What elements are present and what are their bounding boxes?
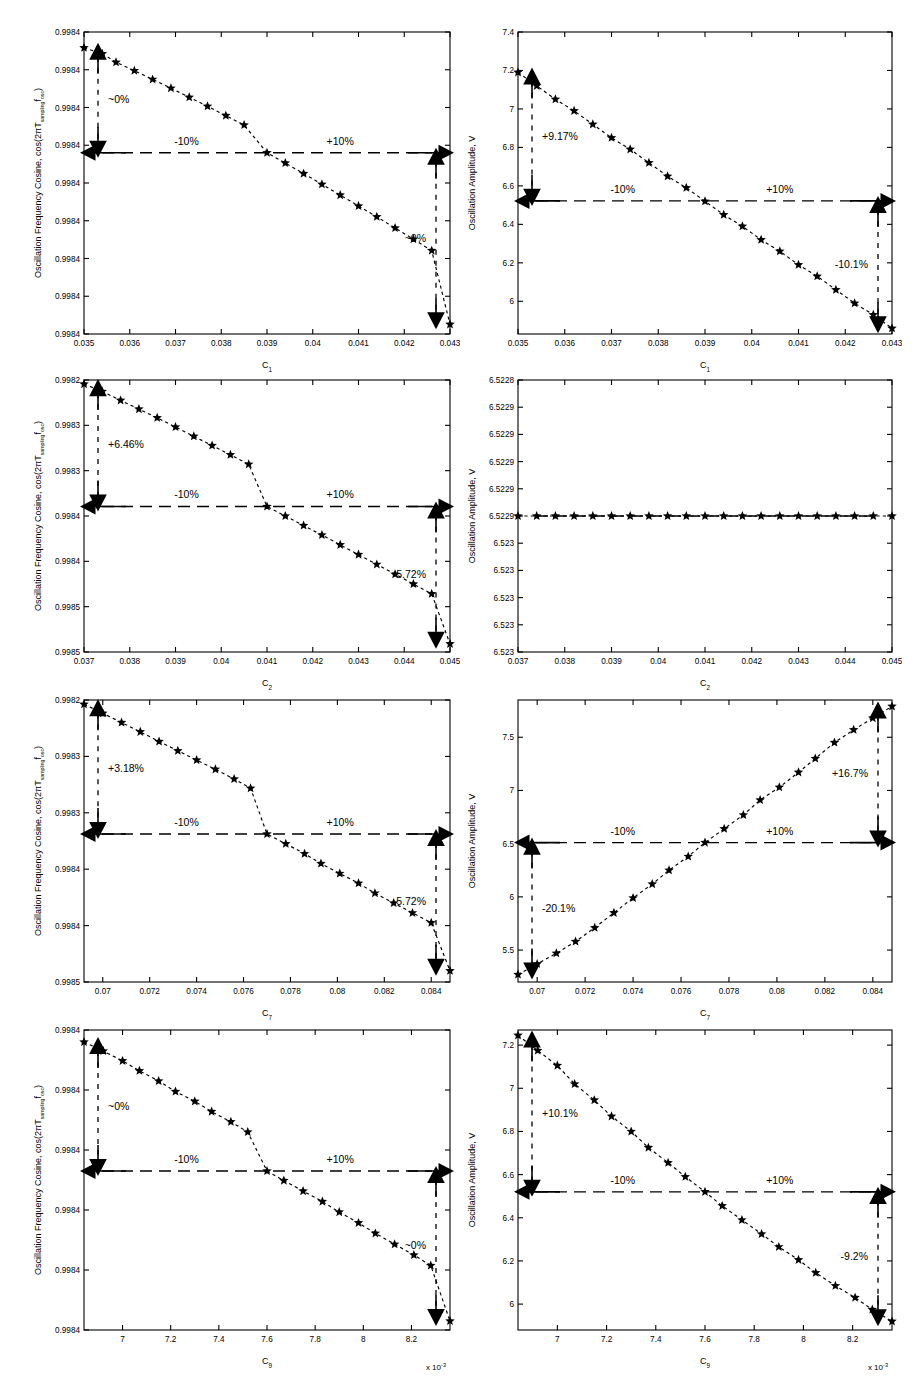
data-point-marker — [831, 285, 841, 294]
svg-text:Oscillation Frequency Cosine,: Oscillation Frequency Cosine, cos(2πTsam… — [33, 746, 45, 936]
data-point-marker — [794, 511, 804, 520]
y-tick-label: 0.9982 — [55, 696, 80, 705]
data-point-marker — [372, 212, 382, 221]
y-tick-label: 0.9984 — [55, 292, 80, 301]
data-point-marker — [427, 246, 437, 255]
data-point-marker — [681, 1172, 691, 1181]
data-point-marker — [211, 764, 221, 773]
y-tick-label: 6.5229 — [489, 430, 514, 439]
x-tick-label: 0.043 — [788, 657, 809, 666]
x-axis-title: C2 — [700, 678, 711, 691]
chart-panel: 0.0350.0360.0370.0380.0390.040.0410.0420… — [28, 22, 460, 382]
arrowhead-down-icon — [427, 312, 445, 329]
x-tick-label: 7.6 — [261, 1335, 273, 1344]
data-point-marker — [390, 1239, 400, 1248]
data-point-marker — [588, 511, 598, 520]
y-axis: 66.26.46.66.877.2 — [503, 1041, 892, 1309]
x-tick-label: 0.043 — [440, 339, 460, 348]
data-point-marker — [648, 879, 658, 888]
chart-panel: 77.27.47.67.888.20.99840.99840.99840.998… — [28, 1020, 460, 1378]
y-tick-label: 0.9984 — [55, 557, 80, 566]
data-point-marker — [625, 144, 635, 153]
x-tick-label: 0.076 — [233, 987, 254, 996]
y-axis: 0.99840.99840.99840.99840.99840.99840.99… — [55, 28, 450, 339]
arrowhead-down-icon — [427, 959, 445, 976]
x-axis: 0.0350.0360.0370.0380.0390.040.0410.0420… — [74, 32, 460, 348]
data-point-marker — [869, 511, 879, 520]
y-axis: 0.99840.99840.99840.99840.99840.9984 — [55, 1026, 450, 1335]
plot-svg: 0.0350.0360.0370.0380.0390.040.0410.0420… — [28, 22, 460, 382]
data-point-marker — [298, 1186, 308, 1195]
x-tick-label: 0.076 — [671, 987, 692, 996]
arrowhead-down-icon — [869, 1309, 887, 1326]
tolerance-label-minus: -10% — [610, 183, 635, 195]
y-tick-label: 7 — [509, 105, 514, 114]
data-point-marker — [738, 511, 748, 520]
x-axis: 77.27.47.67.888.2 — [555, 1030, 859, 1344]
y-tick-label: 6.5229 — [489, 458, 514, 467]
x-tick-label: 0.07 — [529, 987, 545, 996]
data-point-markers — [79, 699, 455, 975]
x-tick-label: 0.08 — [769, 987, 785, 996]
data-point-marker — [354, 201, 364, 210]
data-point-marker — [318, 1197, 328, 1206]
data-point-marker — [426, 1261, 436, 1270]
deviation-label-right: -5.72% — [393, 568, 426, 580]
data-point-marker — [683, 851, 693, 860]
data-point-marker — [372, 559, 382, 568]
y-tick-label: 7.4 — [503, 28, 515, 37]
tolerance-label-minus: -10% — [174, 1153, 199, 1165]
data-point-marker — [335, 190, 345, 199]
tolerance-label-minus: -10% — [174, 816, 199, 828]
x-tick-label: 0.072 — [139, 987, 160, 996]
data-point-marker — [300, 849, 310, 858]
y-tick-label: 0.9985 — [55, 603, 80, 612]
x-tick-label: 0.084 — [863, 987, 884, 996]
x-tick-label: 0.042 — [394, 339, 415, 348]
x-tick-label: 7.6 — [699, 1335, 711, 1344]
x-tick-label: 7.2 — [165, 1335, 177, 1344]
x-tick-label: 0.078 — [280, 987, 301, 996]
data-point-marker — [682, 183, 692, 192]
x-tick-label: 8 — [361, 1335, 366, 1344]
x-tick-label: 0.041 — [348, 339, 369, 348]
plot-frame — [84, 700, 450, 982]
chart-panel: 0.0370.0380.0390.040.0410.0420.0430.0440… — [462, 370, 902, 700]
y-axis: 66.26.46.66.877.27.4 — [503, 28, 892, 306]
y-tick-label: 7 — [509, 786, 514, 795]
data-point-markers — [513, 701, 897, 978]
y-axis-title: Oscillation Frequency Cosine, cos(2πTsam… — [33, 746, 45, 936]
figure-sheet: 0.0350.0360.0370.0380.0390.040.0410.0420… — [0, 0, 914, 1378]
data-point-marker — [335, 868, 345, 877]
deviation-annotation-left: +3.18% — [89, 699, 144, 839]
tolerance-annotations: -10%+10% — [514, 825, 896, 851]
data-point-marker — [571, 937, 581, 946]
deviation-annotation-left: -20.1% — [523, 838, 575, 980]
deviation-label-right: -10.1% — [835, 258, 868, 270]
deviation-label-right: +16.7% — [832, 767, 868, 779]
y-tick-label: 6.8 — [503, 143, 515, 152]
deviation-annotation-right: -9.2% — [841, 1187, 887, 1326]
plot-svg: 77.27.47.67.888.266.26.46.66.877.2Oscill… — [462, 1020, 902, 1378]
chart-panel: 0.0350.0360.0370.0380.0390.040.0410.0420… — [462, 22, 902, 382]
x-tick-label: 0.04 — [744, 339, 760, 348]
data-point-marker — [553, 1061, 563, 1070]
plot-svg: 0.0370.0380.0390.040.0410.0420.0430.0440… — [28, 370, 460, 700]
arrowhead-down-icon — [869, 316, 887, 333]
data-point-marker — [335, 540, 345, 549]
data-point-marker — [316, 859, 326, 868]
data-point-marker — [354, 878, 364, 887]
data-point-markers — [513, 1030, 897, 1325]
x-tick-label: 0.039 — [695, 339, 716, 348]
svg-text:Oscillation Frequency Cosine,: Oscillation Frequency Cosine, cos(2πTsam… — [33, 1085, 45, 1275]
deviation-annotation-right: -5.72% — [393, 501, 445, 648]
x-tick-label: 0.078 — [719, 987, 740, 996]
y-tick-label: 6 — [509, 1300, 514, 1309]
tolerance-label-plus: +10% — [766, 825, 793, 837]
x-tick-label: 0.082 — [374, 987, 395, 996]
deviation-annotation-right: +16.7% — [832, 701, 887, 847]
x-axis: 0.070.0720.0740.0760.0780.080.0820.084 — [95, 700, 442, 996]
x-tick-label: 0.044 — [835, 657, 856, 666]
data-point-marker — [221, 111, 231, 120]
y-axis-title: Oscillation Frequency Cosine, cos(2πTsam… — [33, 88, 45, 278]
